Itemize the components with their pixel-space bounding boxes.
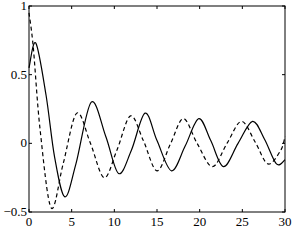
x-tick-label: 25: [236, 214, 249, 229]
plot-frame: [29, 6, 285, 212]
y-axis-ticks: −0.500.51: [3, 0, 285, 219]
x-tick-label: 5: [68, 214, 75, 229]
y-tick-label: −0.5: [3, 204, 27, 219]
series-dashed-line: [29, 13, 285, 209]
series-lines: [29, 13, 285, 209]
y-tick-label: 0.5: [11, 67, 27, 82]
line-chart: 051015202530 −0.500.51: [0, 0, 293, 241]
x-tick-label: 10: [108, 214, 121, 229]
x-tick-label: 15: [151, 214, 164, 229]
x-axis-ticks: 051015202530: [26, 6, 292, 229]
y-tick-label: 1: [21, 0, 28, 13]
series-solid-line: [29, 43, 285, 197]
y-tick-label: 0: [21, 135, 28, 150]
axes-box: [29, 6, 285, 212]
x-tick-label: 20: [193, 214, 206, 229]
x-tick-label: 30: [279, 214, 292, 229]
